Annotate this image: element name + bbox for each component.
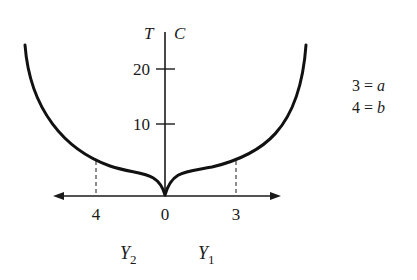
legend-line-b: 4 = b: [352, 99, 385, 116]
region-label-y2: Y2: [120, 243, 137, 267]
x-tick-label-3: 3: [232, 205, 241, 224]
y-tick-label-10: 10: [133, 115, 150, 134]
axis-label-t: T: [144, 24, 155, 43]
y-tick-label-20: 20: [133, 60, 150, 79]
right-arrowhead-icon: [270, 192, 281, 200]
region-label-y1: Y1: [198, 243, 215, 267]
legend-line-a: 3 = a: [352, 77, 385, 94]
axis-label-c: C: [174, 24, 186, 43]
cost-curve-diagram: T C 20 10 4 0 3 Y2 Y1 3 = a 4 = b: [0, 0, 417, 280]
left-arrowhead-icon: [53, 192, 64, 200]
x-tick-label-0: 0: [161, 205, 170, 224]
x-tick-label-4: 4: [92, 205, 101, 224]
